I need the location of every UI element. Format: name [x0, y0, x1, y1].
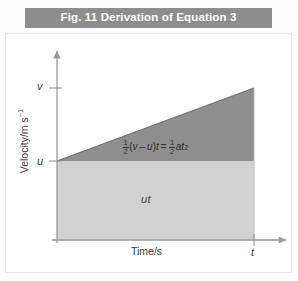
x-axis-label: Time/s: [131, 246, 162, 257]
region-label-ut: ut: [141, 194, 151, 206]
y-axis-label-base: Velocity/m s: [18, 117, 30, 173]
fraction-one-half-right: 1 2: [169, 139, 175, 156]
y-axis-label: Velocity/m s−1: [15, 96, 31, 186]
formula-equals: =: [159, 142, 169, 152]
fraction-denominator: 2: [169, 147, 175, 156]
page-title: Fig. 11 Derivation of Equation 3: [60, 12, 236, 24]
fraction-one-half-left: 1 2: [123, 139, 129, 156]
fraction-numerator: 1: [169, 139, 175, 147]
formula-minus: –: [138, 142, 148, 152]
figure-root: Fig. 11 Derivation of Equation 3 Velocit…: [0, 0, 298, 281]
y-axis-label-text: Velocity/m s−1: [17, 109, 29, 174]
y-tick-label-v: v: [37, 81, 43, 92]
x-tick-label-t: t: [251, 247, 254, 258]
formula-exponent-two: 2: [184, 144, 188, 151]
fraction-numerator: 1: [123, 139, 129, 147]
y-axis-label-superscript: −1: [16, 109, 25, 118]
y-tick-label-u: u: [37, 156, 43, 167]
region-label-triangle-formula: 1 2 (v–u)t= 1 2 at2: [122, 139, 188, 156]
fraction-denominator: 2: [123, 147, 129, 156]
figure-title-banner: Fig. 11 Derivation of Equation 3: [25, 8, 272, 28]
